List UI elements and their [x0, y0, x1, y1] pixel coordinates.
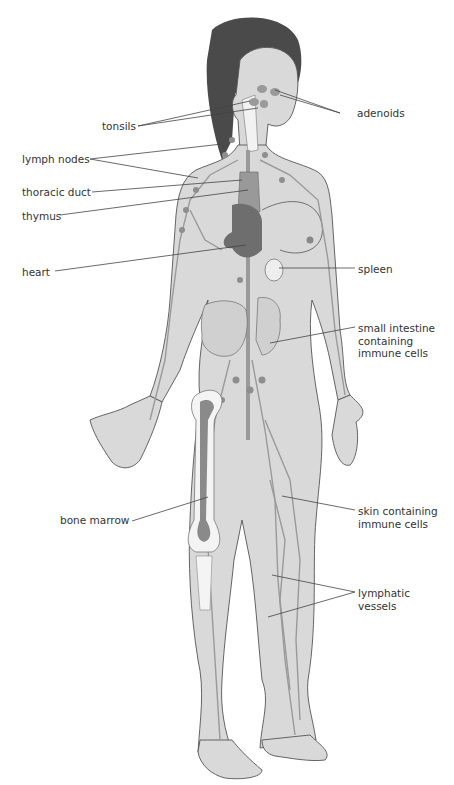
label-skin-line1: skin containing — [358, 505, 438, 518]
label-lymphatic-vessels-line2: vessels — [358, 600, 410, 613]
label-skin: skin containing immune cells — [358, 505, 438, 530]
label-spleen: spleen — [358, 263, 393, 276]
label-adenoids: adenoids — [357, 107, 405, 120]
label-thymus: thymus — [22, 210, 61, 223]
label-small-intestine: small intestine containing immune cells — [358, 322, 435, 360]
intestines — [201, 297, 280, 356]
spleen — [265, 259, 283, 281]
label-small-intestine-line2: containing — [358, 335, 435, 348]
label-small-intestine-line3: immune cells — [358, 347, 435, 360]
label-lymphatic-vessels: lymphatic vessels — [358, 587, 410, 612]
label-small-intestine-line1: small intestine — [358, 322, 435, 335]
label-thoracic-duct: thoracic duct — [22, 186, 91, 199]
label-lymphatic-vessels-line1: lymphatic — [358, 587, 410, 600]
label-bone-marrow: bone marrow — [60, 514, 129, 527]
nipple — [307, 237, 314, 244]
label-skin-line2: immune cells — [358, 518, 438, 531]
label-lymph-nodes: lymph nodes — [22, 153, 90, 166]
label-heart: heart — [22, 266, 50, 279]
label-tonsils: tonsils — [102, 120, 136, 133]
